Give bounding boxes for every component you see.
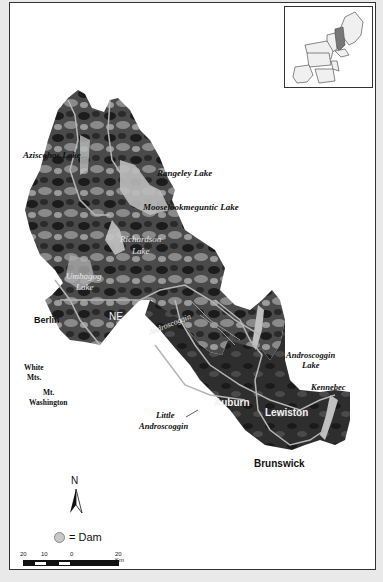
label-umbagog-lake-2: Lake: [75, 282, 94, 292]
north-letter: N: [71, 475, 78, 486]
scale-tick-10: 10: [41, 551, 48, 557]
label-white-mts-1: White: [24, 363, 44, 372]
label-androscoggin-lake-1: Androscoggin: [285, 350, 335, 360]
label-little-androscoggin-1: Little: [155, 410, 175, 420]
label-mt-washington-1: Mt.: [43, 388, 55, 397]
label-rangeley-lake: Rangeley Lake: [156, 168, 212, 178]
northeast-us-outline: [285, 7, 371, 86]
label-mt-washington-2: Washington: [29, 398, 68, 407]
label-richardson-lake-1: Richardson: [119, 234, 162, 244]
label-kennebec: Kennebec: [310, 382, 346, 392]
north-arrow-icon: [68, 487, 84, 517]
label-aziscohos-lake: Aziscohos Lake: [22, 150, 81, 160]
legend: = Dam: [54, 531, 102, 543]
label-little-androscoggin-2: Androscoggin: [138, 421, 188, 431]
label-androscoggin-lake-2: Lake: [301, 360, 320, 370]
legend-dam-label: = Dam: [69, 531, 102, 543]
scale-tick-0: 0: [70, 551, 73, 557]
leader-line-little-androscoggin: [186, 410, 198, 417]
north-arrow: N: [68, 475, 84, 515]
scale-tick-20: 20: [20, 551, 27, 557]
label-auburn: Auburn: [214, 397, 250, 408]
label-mooselookmeguntic-lake: Mooselookmeguntic Lake: [142, 202, 239, 212]
label-ne: NE: [109, 311, 123, 322]
label-berlin: Berlin: [34, 315, 60, 325]
dam-symbol-icon: [54, 532, 65, 543]
label-lewiston: Lewiston: [265, 407, 308, 418]
scale-bar: 20 10 0 20 Km: [19, 551, 129, 571]
label-brunswick: Brunswick: [254, 458, 305, 469]
inset-locator-map: [284, 6, 373, 88]
label-richardson-lake-2: Lake: [131, 246, 150, 256]
label-umbagog-lake-1: Umbagog: [66, 271, 102, 281]
label-white-mts-2: Mts.: [27, 373, 41, 382]
scale-bar-graphic: [23, 560, 119, 566]
